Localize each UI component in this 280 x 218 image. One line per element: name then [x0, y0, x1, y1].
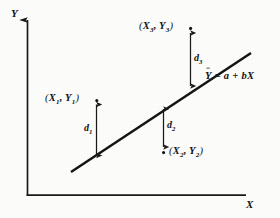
hat-accent-icon: ˆ: [206, 66, 210, 77]
point-2-y-subscript: 2: [196, 151, 200, 159]
point-3-label: (X3, Y3): [139, 21, 173, 32]
y-axis-label: Y: [11, 8, 18, 19]
figure-canvas: [0, 0, 280, 218]
regression-equation-rest: = a + bX: [212, 70, 255, 81]
point-2-close-paren: ): [199, 145, 203, 156]
distance-3-subscript: 3: [199, 58, 202, 65]
point-1-label: (X1, Y1): [45, 93, 79, 104]
point-1-x-symbol: X: [49, 92, 56, 103]
point-1-x-subscript: 1: [56, 98, 60, 106]
point-1-close-paren: ): [75, 92, 79, 103]
point-2-x-subscript: 2: [180, 151, 184, 159]
distance-2-subscript: 2: [172, 125, 175, 132]
regression-figure: Y X (X1, Y1) (X2, Y2) (X3, Y3) d1 d2 d3 …: [0, 0, 280, 218]
distance-1-subscript: 1: [89, 128, 92, 135]
point-1-marker: [95, 99, 98, 102]
point-3-close-paren: ): [169, 20, 173, 31]
point-3-marker: [189, 27, 192, 30]
point-2-marker: [162, 151, 165, 154]
distance-1-label: d1: [84, 123, 92, 133]
distance-2-label: d2: [167, 120, 175, 130]
point-1-y-symbol: Y: [65, 92, 72, 103]
point-3-y-symbol: Y: [159, 20, 166, 31]
distance-3-label: d3: [194, 53, 202, 63]
y-hat-group: ˆY: [205, 71, 212, 82]
point-1-y-subscript: 1: [72, 98, 76, 106]
point-2-y-symbol: Y: [189, 145, 196, 156]
point-3-y-subscript: 3: [166, 26, 170, 34]
point-2-x-symbol: X: [173, 145, 180, 156]
regression-equation-label: ˆY = a + bX: [205, 71, 254, 82]
x-axis-label: X: [246, 199, 253, 210]
point-3-x-subscript: 3: [150, 26, 154, 34]
point-2-label: (X2, Y2): [169, 146, 203, 157]
point-3-x-symbol: X: [143, 20, 150, 31]
